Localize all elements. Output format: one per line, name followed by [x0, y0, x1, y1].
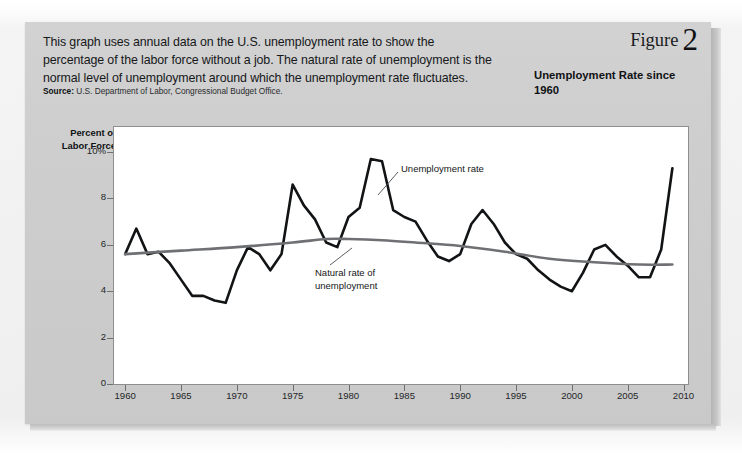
y-tick-label-4: 4 — [62, 284, 106, 295]
source-text: U.S. Department of Labor, Congressional … — [74, 86, 283, 96]
figure-title: Unemployment Rate since 1960 — [534, 68, 696, 98]
annotation-unemployment-rate: Unemployment rate — [401, 163, 484, 176]
x-tick-label-2000: 2000 — [550, 390, 594, 401]
figure-word: Figure — [630, 30, 678, 50]
figure-caption: This graph uses annual data on the U.S. … — [43, 33, 493, 88]
x-tick-label-2005: 2005 — [606, 390, 650, 401]
x-tick-mark-1970 — [237, 385, 238, 391]
x-tick-mark-2010 — [684, 385, 685, 391]
x-tick-mark-1980 — [349, 385, 350, 391]
x-tick-mark-1965 — [181, 385, 182, 391]
x-tick-label-1995: 1995 — [494, 390, 538, 401]
card-bottom-edge — [30, 424, 716, 431]
x-tick-mark-1990 — [460, 385, 461, 391]
source-label: Source: — [43, 86, 74, 96]
x-tick-label-1985: 1985 — [382, 390, 426, 401]
figure-number: 2 — [683, 22, 699, 57]
x-tick-mark-1960 — [125, 385, 126, 391]
x-tick-label-2010: 2010 — [662, 390, 706, 401]
y-tick-label-6: 6 — [62, 238, 106, 249]
y-tick-label-0: 0 — [62, 377, 106, 388]
y-tick-label-8: 8 — [62, 191, 106, 202]
y-tick-label-10: 10% — [62, 145, 106, 156]
x-tick-label-1960: 1960 — [103, 390, 147, 401]
annotation-natural-rate: Natural rate ofunemployment — [315, 267, 377, 292]
x-tick-label-1990: 1990 — [438, 390, 482, 401]
x-tick-label-1980: 1980 — [327, 390, 371, 401]
x-tick-mark-2005 — [628, 385, 629, 391]
series-natural-rate — [125, 239, 672, 265]
series-unemployment-rate — [125, 159, 672, 303]
x-tick-mark-1995 — [516, 385, 517, 391]
figure-label: Figure2 — [534, 30, 694, 51]
x-tick-label-1975: 1975 — [271, 390, 315, 401]
x-tick-label-1970: 1970 — [215, 390, 259, 401]
x-tick-label-1965: 1965 — [159, 390, 203, 401]
card-right-edge — [711, 28, 721, 426]
x-tick-mark-1985 — [404, 385, 405, 391]
x-tick-mark-2000 — [572, 385, 573, 391]
x-tick-mark-1975 — [293, 385, 294, 391]
y-tick-label-2: 2 — [62, 331, 106, 342]
source-line: Source: U.S. Department of Labor, Congre… — [43, 86, 503, 96]
